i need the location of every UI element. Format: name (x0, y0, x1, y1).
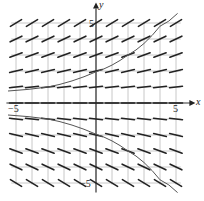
slope-segment (74, 118, 87, 120)
slope-segment (138, 118, 151, 120)
slope-segment (154, 86, 167, 88)
slope-segment (170, 118, 183, 120)
slope-segment (122, 86, 135, 88)
y-max-tick-label: 5 (89, 19, 94, 29)
x-axis-label: x (196, 97, 200, 107)
x-min-tick-label: −5 (8, 104, 19, 114)
slope-segment (170, 86, 183, 88)
slope-segment (90, 118, 103, 120)
y-min-tick-label: −5 (80, 179, 91, 189)
slope-segment (10, 118, 23, 120)
x-max-tick-label: 5 (173, 104, 178, 114)
slope-segment (122, 118, 135, 120)
slope-segment (58, 86, 71, 88)
y-axis-label: y (99, 0, 103, 10)
slope-segment (74, 86, 87, 88)
slope-segment (26, 86, 39, 88)
slope-segment (106, 86, 119, 88)
slope-segment (138, 86, 151, 88)
x-axis-arrow-icon (189, 100, 195, 106)
slope-field-plot (0, 0, 204, 201)
slope-segment (154, 118, 167, 120)
slope-segment (10, 86, 23, 88)
slope-segment (58, 118, 71, 120)
slope-segment (106, 118, 119, 120)
slope-segment (90, 86, 103, 88)
slope-segment (26, 118, 39, 120)
